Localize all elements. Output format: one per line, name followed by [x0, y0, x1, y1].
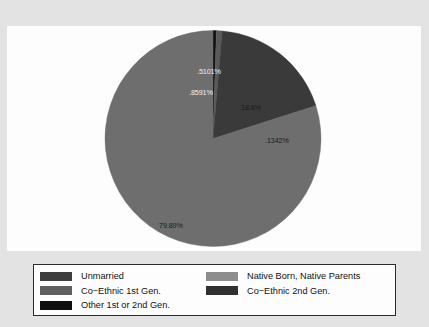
pie-chart-svg — [7, 26, 421, 251]
legend-swatch-co-ethnic-2nd-gen — [206, 286, 238, 295]
legend-label-co-ethnic-2nd-gen: Co−Ethnic 2nd Gen. — [247, 286, 330, 296]
legend-item-native-born-native-parents: Native Born, Native Parents — [206, 269, 391, 284]
legend-swatch-unmarried — [40, 272, 72, 281]
slice-label-co-ethnic-1st-gen: .8591% — [189, 88, 213, 97]
legend-swatch-native-born-native-parents — [206, 272, 238, 281]
slice-label-co-ethnic-2nd-gen: 18.6% — [241, 103, 261, 112]
legend-item-unmarried: Unmarried — [40, 269, 206, 284]
pie-chart: .5101% .8591% 18.6% .1342% 79.89% — [7, 26, 421, 251]
legend-item-empty — [206, 298, 391, 313]
legend-item-co-ethnic-2nd-gen: Co−Ethnic 2nd Gen. — [206, 284, 391, 299]
legend-item-co-ethnic-1st-gen: Co−Ethnic 1st Gen. — [40, 284, 206, 299]
figure-root: .5101% .8591% 18.6% .1342% 79.89% Unmarr… — [0, 0, 429, 327]
legend-label-co-ethnic-1st-gen: Co−Ethnic 1st Gen. — [81, 286, 161, 296]
slice-label-native-born: 79.89% — [159, 221, 183, 230]
legend: UnmarriedNative Born, Native ParentsCo−E… — [33, 264, 396, 316]
legend-label-native-born-native-parents: Native Born, Native Parents — [247, 271, 360, 281]
legend-swatch-other-1st-or-2nd-gen — [40, 301, 72, 310]
slice-label-unmarried: .1342% — [265, 136, 289, 145]
legend-label-unmarried: Unmarried — [81, 271, 124, 281]
slice-label-other-1st-or-2nd-gen: .5101% — [197, 67, 221, 76]
legend-swatch-co-ethnic-1st-gen — [40, 286, 72, 295]
legend-label-other-1st-or-2nd-gen: Other 1st or 2nd Gen. — [81, 300, 170, 310]
legend-item-other-1st-or-2nd-gen: Other 1st or 2nd Gen. — [40, 298, 206, 313]
legend-grid: UnmarriedNative Born, Native ParentsCo−E… — [40, 269, 391, 313]
